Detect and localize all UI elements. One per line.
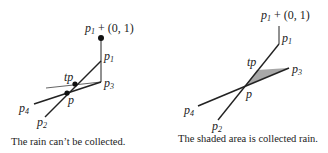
label-p3: p3 xyxy=(103,76,114,91)
diagram-canvas: p1 + (0, 1) p1 p3 tp p p4 p2 p1 + (0, 1)… xyxy=(0,0,328,153)
point-p1-plus xyxy=(98,35,104,41)
label-p1: p1 xyxy=(103,49,114,64)
left-caption: The rain can’t be collected. xyxy=(11,136,125,147)
label-p1: p1 xyxy=(281,31,292,46)
label-p: p xyxy=(245,87,252,101)
label-tp: tp xyxy=(247,55,256,69)
label-p4: p4 xyxy=(183,103,194,118)
right-caption: The shaded area is collected rain. xyxy=(178,133,318,144)
label-p1-plus: p1 + (0, 1) xyxy=(84,21,134,36)
label-p2: p2 xyxy=(211,119,222,134)
label-p3: p3 xyxy=(291,62,302,77)
left-diagram: p1 + (0, 1) p1 p3 tp p p4 p2 xyxy=(18,21,134,130)
label-tp: tp xyxy=(64,70,73,84)
right-diagram: p1 + (0, 1) p1 p3 tp p p4 p2 xyxy=(183,8,310,134)
label-p1-plus: p1 + (0, 1) xyxy=(260,8,310,23)
label-p4: p4 xyxy=(18,101,29,116)
figure: p1 + (0, 1) p1 p3 tp p p4 p2 p1 + (0, 1)… xyxy=(0,0,328,153)
label-p: p xyxy=(67,93,74,107)
